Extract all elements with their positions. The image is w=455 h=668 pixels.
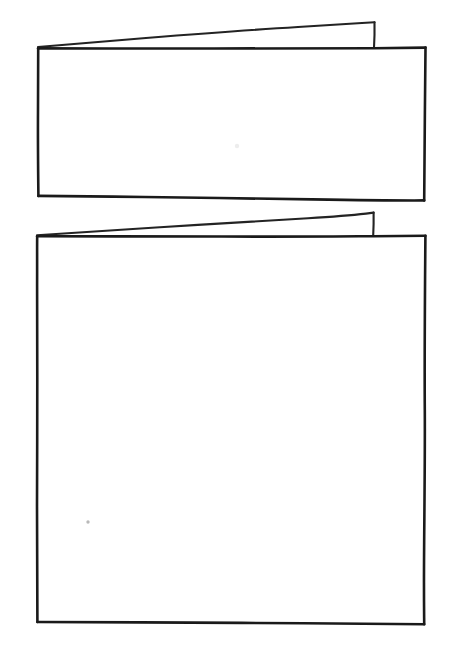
lower-card-top-edge <box>37 236 425 237</box>
upper-card-right-edge <box>424 48 425 201</box>
upper-card-top-edge <box>38 48 426 49</box>
shape-lower-card <box>37 213 425 625</box>
shape-upper-card <box>38 22 426 200</box>
lower-card-right-edge <box>424 236 425 625</box>
lower-card-body-face <box>37 236 425 624</box>
paper-speck-upper-icon <box>235 144 239 148</box>
paper-speck-lower-icon <box>86 520 89 523</box>
upper-card-body-face <box>38 48 425 200</box>
sketch-drawing <box>0 0 455 668</box>
sketch-canvas: Sketch of two blank rectangular cards, e… <box>0 0 455 668</box>
upper-card-flap-drop-edge <box>374 22 375 47</box>
